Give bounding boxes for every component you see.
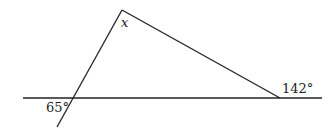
apex-angle-label: x (121, 15, 129, 30)
right-angle-label: 142° (282, 81, 313, 96)
triangle-diagram: x 65° 142° (0, 0, 335, 134)
left-angle-label: 65° (46, 100, 69, 115)
right-side (122, 10, 280, 98)
